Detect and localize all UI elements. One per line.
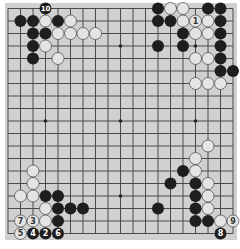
black-stone: [152, 203, 164, 215]
white-stone: 9: [227, 215, 239, 227]
black-stone: [177, 40, 189, 52]
white-stone: [40, 203, 52, 215]
white-stone: [65, 15, 77, 27]
move-number-label: 1: [193, 17, 199, 26]
move-number-label: 8: [218, 229, 224, 238]
black-stone: [65, 203, 77, 215]
black-stone: [215, 40, 227, 52]
white-stone: [27, 178, 39, 190]
move-number-label: 6: [55, 229, 61, 238]
black-stone: [202, 3, 214, 15]
white-stone: [177, 15, 189, 27]
hoshi-point: [194, 119, 198, 123]
move-number-label: 7: [18, 217, 24, 226]
hoshi-point: [194, 44, 198, 48]
white-stone: [165, 3, 177, 15]
black-stone: [27, 15, 39, 27]
white-stone: [65, 28, 77, 40]
black-stone: [152, 3, 164, 15]
black-stone: [52, 15, 64, 27]
white-stone: [202, 78, 214, 90]
white-stone: [190, 28, 202, 40]
go-board-diagram: 10173542698: [0, 0, 240, 249]
black-stone: [177, 165, 189, 177]
white-stone: [40, 40, 52, 52]
black-stone: [52, 215, 64, 227]
white-stone: 5: [15, 228, 27, 240]
black-stone: [202, 215, 214, 227]
black-stone: [190, 215, 202, 227]
black-stone: [190, 190, 202, 202]
white-stone: 7: [15, 215, 27, 227]
black-stone: [77, 203, 89, 215]
white-stone: [40, 15, 52, 27]
black-stone: [152, 15, 164, 27]
black-stone: [227, 65, 239, 77]
white-stone: [27, 190, 39, 202]
black-stone: [152, 40, 164, 52]
black-stone: [215, 65, 227, 77]
white-stone: [190, 153, 202, 165]
white-stone: [190, 53, 202, 65]
white-stone: [202, 140, 214, 152]
black-stone: [52, 190, 64, 202]
white-stone: 3: [27, 215, 39, 227]
go-board: 10173542698: [0, 0, 240, 249]
white-stone: [52, 53, 64, 65]
white-stone: [202, 53, 214, 65]
white-stone: 1: [190, 15, 202, 27]
black-stone: [215, 3, 227, 15]
white-stone: [202, 178, 214, 190]
black-stone: [52, 203, 64, 215]
black-stone: [177, 28, 189, 40]
black-stone: 8: [215, 228, 227, 240]
hoshi-point: [119, 44, 123, 48]
white-stone: [202, 190, 214, 202]
white-stone: [202, 203, 214, 215]
black-stone: [190, 203, 202, 215]
white-stone: [177, 3, 189, 15]
black-stone: [165, 178, 177, 190]
black-stone: [27, 28, 39, 40]
white-stone: [202, 28, 214, 40]
black-stone: [215, 53, 227, 65]
white-stone: [52, 28, 64, 40]
black-stone: [27, 53, 39, 65]
move-number-label: 2: [43, 229, 49, 238]
black-stone: [40, 28, 52, 40]
white-stone: [27, 165, 39, 177]
hoshi-point: [119, 194, 123, 198]
white-stone: [215, 215, 227, 227]
move-number-label: 5: [18, 229, 24, 238]
move-number-label: 3: [30, 217, 36, 226]
white-stone: [215, 78, 227, 90]
black-stone: [215, 28, 227, 40]
black-stone: [15, 15, 27, 27]
black-stone: 10: [40, 3, 52, 15]
black-stone: [215, 15, 227, 27]
black-stone: [165, 15, 177, 27]
black-stone: [40, 190, 52, 202]
black-stone: [27, 40, 39, 52]
move-number-label: 4: [30, 229, 36, 238]
white-stone: [90, 28, 102, 40]
hoshi-point: [44, 119, 48, 123]
white-stone: [77, 28, 89, 40]
black-stone: 2: [40, 228, 52, 240]
white-stone: [190, 165, 202, 177]
black-stone: [190, 178, 202, 190]
hoshi-point: [119, 119, 123, 123]
white-stone: [40, 215, 52, 227]
white-stone: [190, 78, 202, 90]
white-stone: [202, 15, 214, 27]
move-number-label: 9: [230, 217, 236, 226]
black-stone: 4: [27, 228, 39, 240]
white-stone: [15, 190, 27, 202]
black-stone: 6: [52, 228, 64, 240]
move-number-label: 10: [41, 5, 51, 13]
